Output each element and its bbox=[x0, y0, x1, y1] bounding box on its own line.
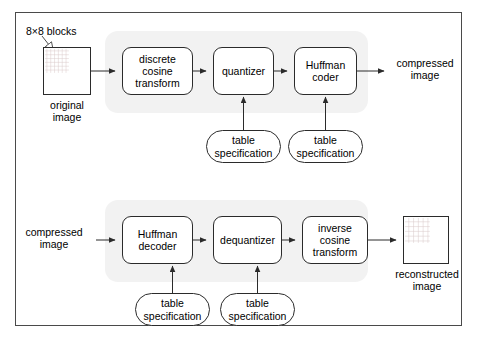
reconstructed-image-block-grid bbox=[404, 217, 448, 263]
compressed-image-output-caption: compressed image bbox=[380, 57, 470, 82]
compressed-image-input-caption: compressed image bbox=[12, 226, 96, 251]
table-specification-huffman-decoder[interactable]: table specification bbox=[135, 293, 210, 326]
original-image-caption: original image bbox=[34, 99, 100, 124]
eight-by-eight-blocks-callout: 8×8 blocks bbox=[26, 25, 77, 37]
reconstructed-image-square bbox=[403, 216, 449, 264]
stage-label: quantizer bbox=[222, 65, 265, 77]
stage-dequantizer[interactable]: dequantizer bbox=[213, 216, 282, 264]
stage-inverse-cosine-transform[interactable]: inverse cosine transform bbox=[302, 216, 368, 264]
table-specification-quantizer[interactable]: table specification bbox=[206, 130, 281, 163]
reconstructed-image-caption: reconstructed image bbox=[381, 268, 473, 293]
table-specification-label: table specification bbox=[215, 134, 273, 158]
original-image-block-grid bbox=[44, 48, 90, 94]
stage-label: Huffman decoder bbox=[138, 228, 178, 252]
table-specification-huffman-coder[interactable]: table specification bbox=[288, 130, 363, 163]
stage-label: dequantizer bbox=[220, 234, 275, 246]
stage-huffman-decoder[interactable]: Huffman decoder bbox=[122, 216, 193, 264]
table-specification-label: table specification bbox=[297, 134, 355, 158]
table-specification-label: table specification bbox=[229, 297, 287, 321]
stage-label: inverse cosine transform bbox=[313, 222, 357, 259]
stage-label: discrete cosine transform bbox=[135, 53, 179, 90]
original-image-square bbox=[43, 47, 91, 95]
table-specification-label: table specification bbox=[144, 297, 202, 321]
stage-quantizer[interactable]: quantizer bbox=[213, 47, 274, 95]
table-specification-dequantizer[interactable]: table specification bbox=[220, 293, 295, 326]
stage-label: Huffman coder bbox=[306, 59, 346, 83]
stage-discrete-cosine-transform[interactable]: discrete cosine transform bbox=[122, 47, 193, 95]
stage-huffman-coder[interactable]: Huffman coder bbox=[294, 47, 357, 95]
jpeg-block-diagram: 8×8 blocks original image discrete cosin… bbox=[0, 0, 478, 339]
